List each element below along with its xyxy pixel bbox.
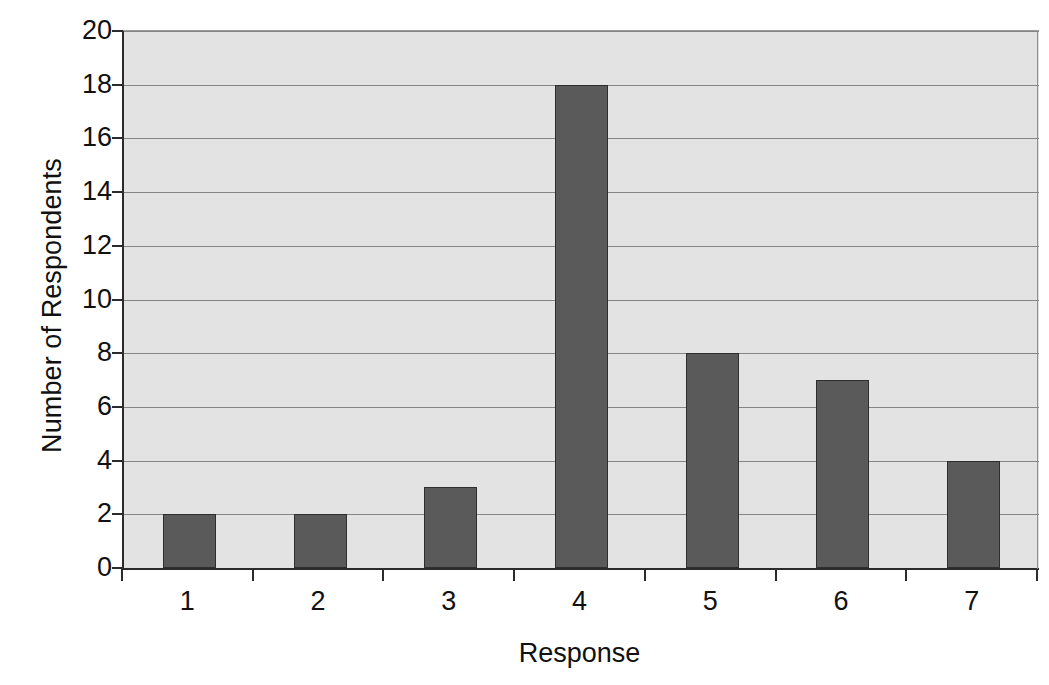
x-tick-mark [905, 569, 907, 581]
x-tick-label: 2 [253, 588, 384, 615]
x-tick-mark [513, 569, 515, 581]
x-tick-mark [252, 569, 254, 581]
x-tick-label: 3 [383, 588, 514, 615]
y-tick-label: 20 [50, 17, 112, 44]
x-tick-mark [1036, 569, 1038, 581]
x-tick-label: 5 [645, 588, 776, 615]
x-tick-mark [382, 569, 384, 581]
x-tick-label: 4 [514, 588, 645, 615]
y-tick-label: 12 [50, 232, 112, 259]
bar [816, 380, 869, 568]
bar [686, 353, 739, 568]
x-tick-label: 6 [775, 588, 906, 615]
bar [555, 85, 608, 568]
bar [163, 514, 216, 568]
bar-chart-figure: Number of Respondents 02468101214161820 … [0, 0, 1049, 685]
y-tick-mark [112, 30, 123, 32]
y-tick-label: 2 [50, 500, 112, 527]
y-tick-label: 8 [50, 339, 112, 366]
y-tick-mark [112, 460, 123, 462]
y-tick-label: 18 [50, 71, 112, 98]
bar [294, 514, 347, 568]
y-tick-mark [112, 513, 123, 515]
bar [424, 487, 477, 568]
y-tick-label: 14 [50, 178, 112, 205]
y-tick-mark [112, 84, 123, 86]
gridline [124, 31, 1039, 32]
x-tick-mark [775, 569, 777, 581]
plot-frame-top-border [122, 30, 1039, 31]
y-tick-label: 16 [50, 124, 112, 151]
y-tick-mark [112, 245, 123, 247]
y-tick-mark [112, 352, 123, 354]
plot-frame-right-border [1037, 31, 1038, 569]
y-tick-label: 10 [50, 286, 112, 313]
y-tick-label: 6 [50, 393, 112, 420]
y-tick-label: 4 [50, 447, 112, 474]
plot-area [122, 31, 1039, 570]
x-tick-label: 7 [906, 588, 1037, 615]
x-tick-mark [121, 569, 123, 581]
bar [947, 461, 1000, 568]
y-tick-mark [112, 299, 123, 301]
x-tick-mark [644, 569, 646, 581]
y-tick-label: 0 [50, 554, 112, 581]
y-tick-mark [112, 406, 123, 408]
x-axis-title: Response [122, 638, 1037, 669]
y-tick-mark [112, 137, 123, 139]
x-tick-label: 1 [122, 588, 253, 615]
y-tick-mark [112, 191, 123, 193]
